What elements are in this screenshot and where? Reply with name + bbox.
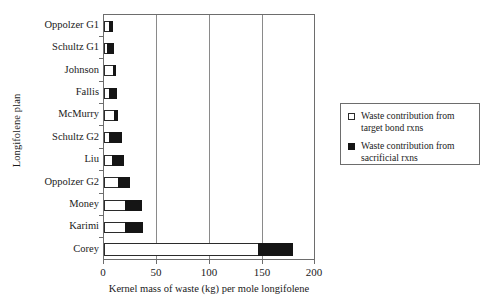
bar-segment-sacrificial bbox=[109, 21, 113, 32]
legend-label-sacrificial: Waste contribution from sacrificial rxns bbox=[361, 140, 473, 163]
longifolene-waste-bar-chart: Longifolene plan Oppolzer G1 Schultz G1 … bbox=[0, 0, 495, 307]
bar-segment-sacrificial bbox=[113, 65, 116, 76]
bar-segment-sacrificial bbox=[125, 200, 142, 211]
bar-stack-johnson bbox=[104, 65, 116, 76]
xtick-mark-200 bbox=[314, 260, 315, 264]
bar-row bbox=[104, 239, 293, 261]
bar-row bbox=[104, 60, 116, 82]
ytick-label-4: McMurry bbox=[9, 108, 99, 119]
bar-row bbox=[104, 216, 143, 238]
xtick-label-200: 200 bbox=[294, 266, 334, 278]
bar-stack-oppolzer-g1 bbox=[104, 21, 113, 32]
bar-segment-sacrificial bbox=[258, 243, 293, 256]
legend-entry-target-bond: Waste contribution from target bond rxns bbox=[348, 110, 473, 133]
xtick-label-150: 150 bbox=[242, 266, 282, 278]
xtick-mark-100 bbox=[209, 260, 210, 264]
bar-stack-karimi bbox=[104, 222, 143, 233]
ytick-label-10: Corey bbox=[9, 243, 99, 254]
bars-layer bbox=[104, 15, 314, 259]
ytick-label-5: Schultz G2 bbox=[9, 131, 99, 142]
xtick-label-0: 0 bbox=[83, 266, 123, 278]
bar-segment-target-bond bbox=[104, 155, 112, 166]
xtick-mark-0 bbox=[103, 260, 104, 264]
chart-legend: Waste contribution from target bond rxns… bbox=[340, 103, 480, 165]
bar-stack-corey bbox=[104, 243, 293, 256]
ytick-label-6: Liu bbox=[9, 153, 99, 164]
bar-stack-schultz-g1 bbox=[104, 43, 114, 54]
bar-row bbox=[104, 172, 130, 194]
xtick-label-100: 100 bbox=[189, 266, 229, 278]
bar-segment-sacrificial bbox=[109, 132, 122, 143]
bar-segment-sacrificial bbox=[112, 155, 124, 166]
ytick-label-8: Money bbox=[9, 198, 99, 209]
ytick-label-0: Oppolzer G1 bbox=[9, 19, 99, 30]
bar-segment-sacrificial bbox=[125, 222, 144, 233]
ytick-label-3: Fallis bbox=[9, 86, 99, 97]
plot-area bbox=[103, 14, 315, 260]
xtick-mark-50 bbox=[156, 260, 157, 264]
bar-segment-target-bond bbox=[104, 177, 118, 188]
ytick-label-9: Karimi bbox=[9, 220, 99, 231]
x-axis-title: Kernel mass of waste (kg) per mole longi… bbox=[103, 283, 315, 294]
xtick-label-50: 50 bbox=[136, 266, 176, 278]
xtick-mark-150 bbox=[262, 260, 263, 264]
bar-segment-target-bond bbox=[104, 110, 114, 121]
bar-stack-liu bbox=[104, 155, 124, 166]
bar-segment-target-bond bbox=[104, 200, 125, 211]
ytick-label-1: Schultz G1 bbox=[9, 41, 99, 52]
bar-segment-target-bond bbox=[104, 222, 125, 233]
bar-stack-mcmurry bbox=[104, 110, 118, 121]
bar-stack-fallis bbox=[104, 88, 117, 99]
bar-stack-money bbox=[104, 200, 142, 211]
bar-segment-sacrificial bbox=[118, 177, 130, 188]
bar-row bbox=[104, 149, 124, 171]
bar-segment-target-bond bbox=[104, 65, 113, 76]
bar-segment-sacrificial bbox=[114, 110, 118, 121]
bar-row bbox=[104, 127, 122, 149]
bar-row bbox=[104, 104, 118, 126]
bar-row bbox=[104, 15, 113, 37]
legend-label-target-bond: Waste contribution from target bond rxns bbox=[361, 110, 473, 133]
ytick-label-2: Johnson bbox=[9, 64, 99, 75]
black-square-icon bbox=[348, 143, 355, 150]
legend-entry-sacrificial: Waste contribution from sacrificial rxns bbox=[348, 140, 473, 163]
bar-segment-target-bond bbox=[104, 243, 258, 256]
bar-row bbox=[104, 82, 117, 104]
bar-row bbox=[104, 37, 114, 59]
bar-stack-oppolzer-g2 bbox=[104, 177, 130, 188]
bar-row bbox=[104, 194, 142, 216]
bar-segment-sacrificial bbox=[109, 88, 117, 99]
ytick-label-7: Oppolzer G2 bbox=[9, 176, 99, 187]
white-square-icon bbox=[348, 113, 355, 120]
bar-segment-sacrificial bbox=[107, 43, 113, 54]
bar-stack-schultz-g2 bbox=[104, 132, 122, 143]
